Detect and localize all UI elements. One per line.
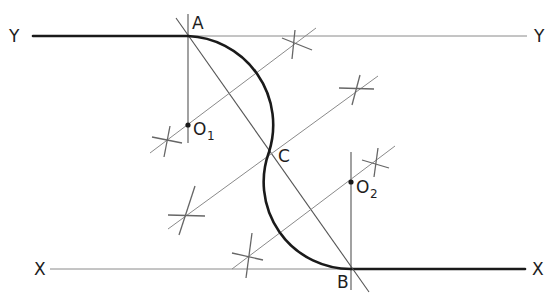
label-y-left: Y [8, 26, 20, 46]
ogee-curve-diagram: Y Y X X A C B O 1 O 2 [0, 0, 557, 300]
center-o2-dot [348, 179, 353, 184]
line-ab [176, 18, 369, 292]
label-o1-main: O [193, 119, 206, 139]
label-point-a: A [192, 13, 204, 33]
label-x-right: X [532, 259, 544, 279]
reverse-curve [188, 36, 351, 269]
label-o2-main: O [356, 177, 369, 197]
label-center-o1: O 1 [193, 119, 215, 143]
arc-mark-4 [168, 186, 205, 235]
bisector-ac [150, 28, 316, 153]
label-y-right: Y [533, 26, 545, 46]
label-point-c: C [278, 146, 290, 166]
label-center-o2: O 2 [356, 177, 378, 201]
label-point-b: B [337, 272, 349, 292]
arc-mark-5 [362, 148, 389, 177]
arc-mark-6 [232, 233, 263, 278]
label-o1-sub: 1 [207, 129, 215, 143]
construction-line-c [168, 76, 378, 229]
label-x-left: X [34, 259, 46, 279]
center-o1-dot [185, 122, 190, 127]
arc-mark-3 [152, 126, 182, 157]
label-o2-sub: 2 [370, 187, 378, 201]
